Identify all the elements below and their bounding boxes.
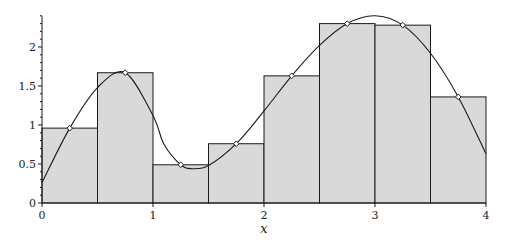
x-axis-ticks: 01234 [39,203,490,222]
riemann-sum-chart: 01234 00.511.52 x [0,0,509,245]
bar [320,24,376,203]
y-tick-label: 1 [29,119,36,132]
bar [431,97,487,203]
x-tick-label: 1 [150,209,157,222]
bar [264,76,320,203]
bar [98,73,154,203]
x-tick-label: 3 [372,209,379,222]
x-tick-label: 4 [483,209,490,222]
x-tick-label: 0 [39,209,46,222]
x-axis-label: x [260,221,268,236]
bar [153,165,209,203]
y-tick-label: 0.5 [19,158,37,171]
y-tick-label: 2 [29,41,36,54]
bar [209,144,265,203]
y-tick-label: 1.5 [19,80,37,93]
y-tick-label: 0 [29,197,36,210]
y-axis-ticks: 00.511.52 [19,16,43,210]
bars-group [42,24,486,203]
bar [375,25,431,203]
